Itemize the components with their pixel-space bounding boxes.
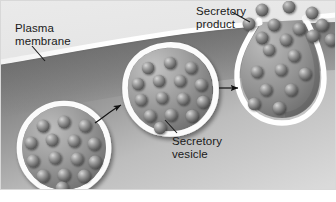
granule (273, 102, 285, 114)
granule-released (306, 7, 319, 20)
granule (285, 84, 297, 96)
granule-released (283, 1, 296, 14)
exocytosis-diagram: Plasma membrane Secretory product Secret… (0, 0, 336, 202)
granule (46, 134, 59, 147)
granule (37, 170, 50, 183)
granule-released (293, 23, 306, 36)
granule (195, 79, 207, 91)
granule (156, 92, 168, 104)
granule (174, 75, 186, 87)
granule (144, 110, 156, 122)
granule (186, 110, 198, 122)
granule (135, 94, 147, 106)
granule-released (307, 30, 320, 43)
granule (165, 109, 177, 121)
granule (248, 98, 260, 110)
granule (260, 84, 272, 96)
granule-released (280, 34, 293, 47)
granule (89, 156, 102, 169)
label-secretory-vesicle: Secretory vesicle (172, 135, 222, 160)
granule (288, 50, 300, 62)
granule (58, 116, 71, 129)
granule (177, 93, 189, 105)
granule (71, 153, 84, 166)
label-secretory-product: Secretory product (196, 5, 246, 30)
granule (299, 68, 311, 80)
granule (275, 64, 287, 76)
granule (58, 169, 71, 182)
granule (197, 96, 209, 108)
label-plasma-membrane: Plasma membrane (15, 22, 71, 47)
granule (49, 152, 62, 165)
granule (68, 135, 81, 148)
granule (79, 120, 92, 133)
granule (251, 66, 263, 78)
granule (153, 75, 165, 87)
granule-released (268, 19, 281, 32)
granule (164, 57, 176, 69)
granule-released (316, 19, 329, 32)
granule (132, 78, 144, 90)
granule (154, 122, 166, 134)
granule (88, 138, 101, 151)
granule (263, 44, 275, 56)
granule (142, 62, 154, 74)
granule-released (256, 32, 269, 45)
granule (27, 155, 40, 168)
granule (78, 170, 91, 183)
granule (37, 120, 50, 133)
granule (185, 62, 197, 74)
granule (25, 137, 38, 150)
granule-released (256, 4, 269, 17)
